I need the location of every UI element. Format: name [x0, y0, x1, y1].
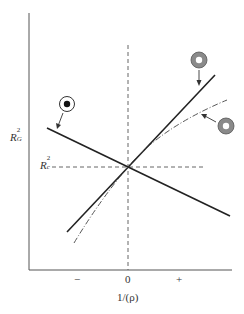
shell-particle-icon-top	[191, 52, 207, 68]
y-axis-label: R2G	[10, 131, 17, 143]
dash-dot-curve	[74, 100, 227, 243]
diagram-canvas	[0, 0, 244, 314]
arrow-to-curve	[205, 116, 216, 122]
dark-core-particle-icon	[60, 97, 75, 112]
rc-label: R2c	[40, 159, 47, 171]
x-axis-label: 1/(ρ)	[117, 291, 138, 303]
shell-particle-icon-bottom	[218, 118, 234, 134]
arrow-to-negative-line	[58, 113, 63, 126]
y-axis-sup: 2	[17, 126, 21, 134]
y-axis-sub: G	[17, 135, 22, 143]
y-axis-symbol: R	[10, 131, 17, 143]
rc-symbol: R	[40, 159, 47, 171]
tick-zero: 0	[125, 273, 131, 285]
arrowhead-icon	[197, 80, 202, 86]
rc-sub: c	[47, 163, 50, 171]
tick-minus: −	[74, 273, 80, 285]
negative-slope-line	[47, 128, 230, 216]
tick-plus: +	[176, 273, 182, 285]
rc-sup: 2	[47, 154, 51, 162]
